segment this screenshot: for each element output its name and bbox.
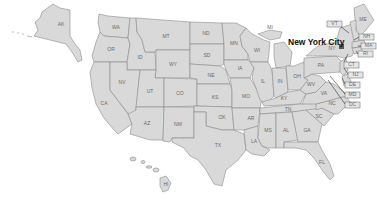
svg-text:RI: RI <box>363 50 368 56</box>
label-ca: CA <box>101 100 109 106</box>
label-ga: GA <box>303 127 311 133</box>
svg-text:NJ: NJ <box>352 71 359 77</box>
state-hi[interactable]: HI <box>130 157 171 192</box>
label-tx: TX <box>215 142 222 148</box>
label-al: AL <box>283 127 289 133</box>
svg-text:DE: DE <box>349 81 357 87</box>
callout-ma[interactable]: MA <box>358 42 376 49</box>
label-oh: OH <box>293 73 301 79</box>
label-nv: NV <box>119 79 127 85</box>
label-ky: KY <box>281 95 288 101</box>
label-sd: SD <box>204 52 211 58</box>
us-map: AK HI WA OR CA ID NV MT WY UT <box>0 0 377 201</box>
label-co: CO <box>176 90 184 96</box>
state-nd[interactable]: ND <box>190 22 224 44</box>
label-in: IN <box>278 78 283 84</box>
label-wa: WA <box>112 24 121 30</box>
svg-text:DC: DC <box>349 101 357 107</box>
label-ok: OK <box>218 114 226 120</box>
state-co[interactable]: CO <box>164 78 197 107</box>
label-me: ME <box>359 16 367 22</box>
svg-text:VT: VT <box>331 20 337 26</box>
label-or: OR <box>107 46 115 52</box>
svg-text:MD: MD <box>349 91 357 97</box>
label-mt: MT <box>162 33 169 39</box>
label-la: LA <box>251 138 258 144</box>
label-il: IL <box>261 78 265 84</box>
label-hi: HI <box>164 181 169 187</box>
state-mt[interactable]: MT <box>136 18 190 52</box>
label-az: AZ <box>144 120 150 126</box>
label-nd: ND <box>202 30 210 36</box>
state-pa[interactable]: PA <box>304 56 342 78</box>
state-sd[interactable]: SD <box>190 44 224 66</box>
label-nc: NC <box>328 100 336 106</box>
label-wy: WY <box>169 61 178 67</box>
label-pa: PA <box>318 62 325 68</box>
state-ak[interactable]: AK <box>12 4 82 62</box>
state-fl[interactable]: FL <box>284 142 334 180</box>
state-az[interactable]: AZ <box>128 107 164 140</box>
label-ms: MS <box>264 127 272 133</box>
state-ia[interactable]: IA <box>224 60 254 78</box>
label-nm: NM <box>174 121 182 127</box>
state-ks[interactable]: KS <box>197 84 232 107</box>
city-label-nyc: New York City <box>288 37 345 47</box>
state-nm[interactable]: NM <box>163 107 194 142</box>
label-fl: FL <box>319 159 325 165</box>
label-mo: MO <box>242 93 250 99</box>
label-wv: WV <box>307 81 316 87</box>
label-va: VA <box>321 90 328 96</box>
state-ms[interactable]: MS <box>258 113 276 148</box>
label-ar: AR <box>248 115 255 121</box>
label-wi: WI <box>254 47 260 53</box>
callout-ri[interactable]: RI <box>356 50 373 57</box>
label-ak: AK <box>58 21 65 27</box>
label-mi: MI <box>267 24 273 30</box>
label-sc: SC <box>316 113 323 119</box>
svg-text:CT: CT <box>348 61 355 67</box>
label-ia: IA <box>238 65 243 71</box>
label-mn: MN <box>230 40 238 46</box>
label-ne: NE <box>208 72 216 78</box>
label-ut: UT <box>147 88 154 94</box>
svg-text:MA: MA <box>365 42 373 48</box>
label-ks: KS <box>212 94 219 100</box>
label-id: ID <box>138 54 143 60</box>
svg-text:NH: NH <box>363 33 371 39</box>
state-wy[interactable]: WY <box>155 50 190 78</box>
label-tn: TN <box>285 106 292 112</box>
